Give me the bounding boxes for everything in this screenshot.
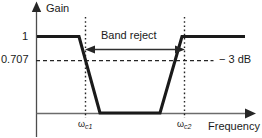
band-reject-label: Band reject — [101, 30, 157, 41]
y-tick-label-1: 1 — [22, 31, 28, 42]
x-axis-arrowhead — [245, 109, 256, 119]
y-axis-label: Gain — [46, 3, 69, 14]
band-reject-span-arrow — [85, 45, 185, 53]
band-reject-arrowhead-left — [85, 45, 95, 53]
omega-sub-2: c2 — [184, 123, 191, 130]
x-tick-label-wc2: ωc2 — [177, 120, 191, 130]
x-tick-label-wc1: ωc1 — [78, 120, 92, 130]
omega-glyph-2: ω — [177, 119, 184, 129]
x-axis-label: Frequency — [208, 121, 260, 132]
gain-response-curve — [37, 37, 245, 114]
omega-sub-1: c1 — [85, 123, 92, 130]
minus-3db-label: − 3 dB — [219, 54, 251, 65]
axis-group — [32, 2, 256, 138]
omega-glyph-1: ω — [78, 119, 85, 129]
y-axis-arrowhead — [32, 2, 41, 13]
y-tick-label-0707: 0.707 — [1, 54, 29, 65]
band-reject-filter-figure: Gain 1 0.707 − 3 dB Band reject Frequenc… — [0, 0, 262, 137]
filter-response-plot — [0, 0, 262, 137]
